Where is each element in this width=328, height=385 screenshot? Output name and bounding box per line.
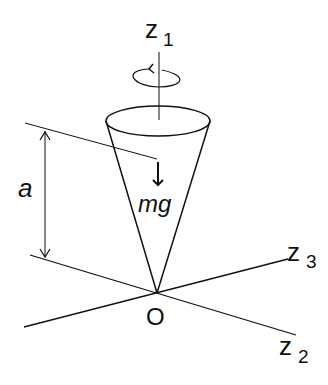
- z2-subscript: 2: [298, 346, 309, 367]
- origin-label: O: [146, 303, 165, 330]
- cone-diagram: z 1 z 3 z 2 O a mg: [0, 0, 328, 385]
- height-label: a: [18, 173, 32, 203]
- z2-label: z: [279, 331, 292, 361]
- weight-label: mg: [138, 190, 172, 217]
- z3-label: z: [287, 237, 300, 267]
- z3-subscript: 3: [306, 251, 317, 272]
- rotation-arrow-icon: [133, 64, 180, 87]
- height-dimension-arrow: [40, 131, 50, 257]
- z1-subscript: 1: [163, 29, 174, 50]
- z1-label: z: [145, 14, 158, 44]
